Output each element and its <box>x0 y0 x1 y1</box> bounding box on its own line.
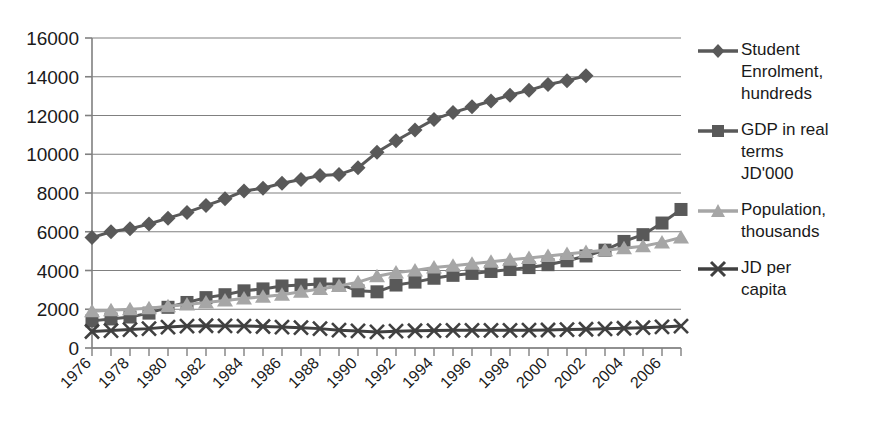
data-point-diamond <box>332 167 347 182</box>
legend-item-gdp[interactable]: GDP in real terms JD'000 <box>697 119 873 185</box>
x-axis-label: 1988 <box>285 354 322 391</box>
series-0 <box>85 68 594 245</box>
legend-key-triangle-icon <box>697 200 739 222</box>
x-axis-label: 2000 <box>513 354 550 391</box>
y-axis-label: 4000 <box>37 261 79 282</box>
data-point-square <box>390 279 403 292</box>
x-axis-label: 2004 <box>589 354 626 391</box>
data-point-diamond <box>275 176 290 191</box>
legend-key-diamond-icon <box>697 40 739 62</box>
x-axis-label: 1980 <box>133 354 170 391</box>
series-line <box>92 238 681 312</box>
data-point-square <box>675 203 688 216</box>
series-layer <box>84 68 689 339</box>
x-axis-label: 1996 <box>437 354 474 391</box>
x-axis-label: 1982 <box>171 354 208 391</box>
y-axis-label: 8000 <box>37 183 79 204</box>
x-axis-label: 1976 <box>57 354 94 391</box>
x-axis-label: 1978 <box>95 354 132 391</box>
y-axis-label: 10000 <box>26 144 79 165</box>
x-axis-label: 2002 <box>551 354 588 391</box>
data-point-diamond <box>503 88 518 103</box>
gridlines <box>92 38 681 348</box>
legend-item-student-enrolment[interactable]: Student Enrolment, hundreds <box>697 39 873 105</box>
data-point-diamond <box>313 168 328 183</box>
data-point-diamond <box>161 211 176 226</box>
data-point-square <box>656 217 669 230</box>
data-point-diamond <box>484 93 499 108</box>
data-point-diamond <box>142 217 157 232</box>
data-point-diamond <box>104 224 119 239</box>
data-point-diamond <box>180 205 195 220</box>
legend-key-x-icon <box>697 258 739 280</box>
x-axis-label: 1994 <box>399 354 436 391</box>
legend-label-student-enrolment: Student Enrolment, hundreds <box>741 39 823 105</box>
legend-label-gdp: GDP in real terms JD'000 <box>741 119 829 185</box>
y-axis-label: 16000 <box>26 28 79 49</box>
chart-container: 1600014000120001000080006000400020000 19… <box>0 0 873 438</box>
data-point-diamond <box>446 105 461 120</box>
data-point-diamond <box>389 133 404 148</box>
data-point-square <box>428 272 441 285</box>
data-point-diamond <box>237 184 252 199</box>
x-axis-label: 1984 <box>209 354 246 391</box>
legend-item-jd-per-capita[interactable]: JD per capita <box>697 257 873 301</box>
legend-label-jd-per-capita: JD per capita <box>741 257 791 301</box>
data-point-square <box>409 276 422 289</box>
data-point-diamond <box>579 68 594 83</box>
y-axis-label: 2000 <box>37 299 79 320</box>
series-3 <box>85 319 688 339</box>
x-axis-tick-labels: 1976197819801982198419861988199019921994… <box>57 354 664 391</box>
data-point-diamond <box>408 123 423 138</box>
data-point-diamond <box>427 112 442 127</box>
x-axis-label: 1992 <box>361 354 398 391</box>
x-axis-label: 1990 <box>323 354 360 391</box>
y-axis <box>85 38 92 348</box>
x-axis-label: 2006 <box>627 354 664 391</box>
legend-key-square-icon <box>697 120 739 142</box>
x-axis-label: 1986 <box>247 354 284 391</box>
legend-label-population: Population, thousands <box>741 199 826 243</box>
data-point-diamond <box>465 99 480 114</box>
data-point-square <box>371 285 384 298</box>
y-axis-label: 14000 <box>26 67 79 88</box>
y-axis-label: 6000 <box>37 222 79 243</box>
x-axis-label: 1998 <box>475 354 512 391</box>
y-axis-label: 12000 <box>26 106 79 127</box>
data-point-diamond <box>522 83 537 98</box>
chart-legend: Student Enrolment, hundreds GDP in real … <box>697 39 873 315</box>
legend-item-population[interactable]: Population, thousands <box>697 199 873 243</box>
data-point-diamond <box>294 172 309 187</box>
y-axis-tick-labels: 1600014000120001000080006000400020000 <box>26 28 79 359</box>
data-point-diamond <box>199 198 214 213</box>
data-point-diamond <box>123 221 138 236</box>
data-point-diamond <box>560 73 575 88</box>
data-point-diamond <box>541 77 556 92</box>
y-axis-label: 0 <box>68 338 79 359</box>
